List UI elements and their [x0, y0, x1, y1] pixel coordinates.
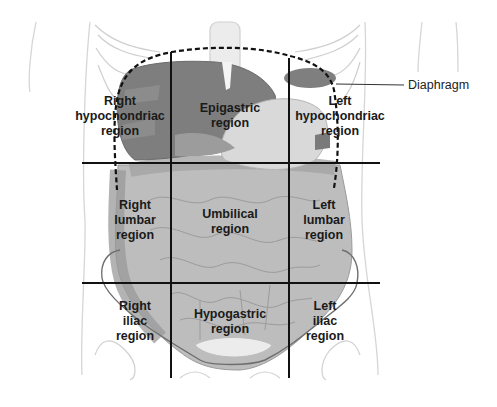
label-right-lumbar: Right lumbar region	[114, 198, 156, 243]
label-line: region	[303, 228, 345, 243]
label-line: hypochondriac	[75, 109, 165, 124]
label-line: iliac	[116, 314, 154, 329]
label-line: lumbar	[303, 213, 345, 228]
label-line: iliac	[306, 314, 344, 329]
label-line: lumbar	[114, 213, 156, 228]
label-line: Umbilical	[202, 207, 258, 222]
label-line: Left	[303, 198, 345, 213]
label-line: region	[295, 124, 385, 139]
label-line: region	[306, 329, 344, 344]
label-line: region	[202, 222, 258, 237]
label-line: region	[114, 228, 156, 243]
label-hypogastric: Hypogastric region	[194, 307, 266, 337]
label-left-hypochondriac: Left hypochondriac region	[295, 94, 385, 139]
diaphragm-label: Diaphragm	[408, 78, 469, 92]
label-line: Left	[295, 94, 385, 109]
label-line: Right	[114, 198, 156, 213]
label-right-hypochondriac: Right hypochondriac region	[75, 94, 165, 139]
label-line: region	[200, 116, 260, 131]
label-line: Left	[306, 299, 344, 314]
diaphragm-callout-line	[336, 84, 404, 85]
abdominal-regions-diagram: Right hypochondriac region Epigastric re…	[0, 0, 497, 407]
label-line: region	[75, 124, 165, 139]
label-line: region	[116, 329, 154, 344]
label-epigastric: Epigastric region	[200, 101, 260, 131]
label-line: hypochondriac	[295, 109, 385, 124]
label-left-lumbar: Left lumbar region	[303, 198, 345, 243]
label-line: Right	[75, 94, 165, 109]
label-line: Hypogastric	[194, 307, 266, 322]
label-line: Right	[116, 299, 154, 314]
label-line: region	[194, 322, 266, 337]
label-umbilical: Umbilical region	[202, 207, 258, 237]
anatomy-illustration	[0, 0, 497, 407]
label-right-iliac: Right iliac region	[116, 299, 154, 344]
label-left-iliac: Left iliac region	[306, 299, 344, 344]
label-line: Epigastric	[200, 101, 260, 116]
